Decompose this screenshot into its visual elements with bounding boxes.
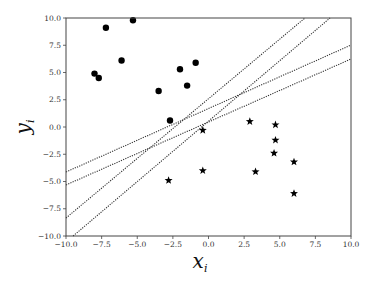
separator-2-line: [66, 59, 351, 185]
x-tick-label: 2.5: [238, 240, 250, 249]
x-tick-label: 5.0: [274, 240, 286, 249]
star-marker: [199, 166, 207, 174]
x-tick-label: −10.0: [55, 240, 78, 249]
y-tick-label: −7.5: [43, 204, 61, 213]
x-tick-label: −5.0: [128, 240, 146, 249]
star-marker: [165, 176, 173, 184]
circle-marker: [167, 117, 173, 123]
data-points: [91, 17, 298, 197]
star-marker: [271, 136, 279, 144]
star-marker: [252, 167, 260, 175]
star-marker: [246, 117, 254, 125]
x-tick-label: 10.0: [343, 240, 360, 249]
circle-marker: [103, 25, 109, 31]
x-tick-label: −7.5: [93, 240, 111, 249]
separator-3-line: [66, 18, 305, 218]
y-tick-label: 10.0: [44, 14, 61, 23]
x-tick-label: −2.5: [164, 240, 182, 249]
star-marker: [271, 121, 279, 129]
x-tick-label: 7.5: [309, 240, 321, 249]
y-tick-label: 7.5: [49, 41, 61, 50]
y-tick-label: −10.0: [38, 232, 61, 241]
x-axis-label: xi: [193, 249, 208, 275]
y-tick-label: −5.0: [43, 177, 61, 186]
x-tick-label: 0.0: [203, 240, 215, 249]
circle-marker: [177, 66, 183, 72]
separator-1-line: [66, 45, 351, 172]
star-marker: [290, 158, 298, 166]
plot-frame: [66, 18, 351, 236]
y-axis-label: yi: [11, 120, 37, 136]
y-tick-label: 2.5: [49, 95, 61, 104]
separator-4-line: [73, 18, 330, 236]
circle-marker: [192, 59, 198, 65]
y-tick-label: −2.5: [43, 150, 61, 159]
separating-lines: [66, 18, 351, 236]
x-axis-ticks: −10.0−7.5−5.0−2.50.02.55.07.510.0: [55, 236, 360, 249]
star-marker: [290, 189, 298, 197]
circle-marker: [155, 88, 161, 94]
star-marker: [199, 126, 207, 134]
scatter-chart: −10.0−7.5−5.0−2.50.02.55.07.510.0 −10.0−…: [0, 0, 379, 282]
circle-marker: [118, 57, 124, 63]
star-marker: [270, 149, 278, 157]
y-tick-label: 0.0: [49, 123, 61, 132]
circle-marker: [184, 82, 190, 88]
circle-marker: [96, 75, 102, 81]
y-axis-ticks: −10.0−7.5−5.0−2.50.02.55.07.510.0: [38, 14, 66, 241]
y-tick-label: 5.0: [49, 68, 61, 77]
